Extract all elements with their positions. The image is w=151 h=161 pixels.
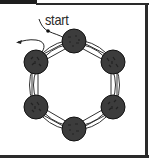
exit-arrowhead-icon xyxy=(16,40,22,44)
frame-bottom-line xyxy=(0,155,149,158)
start-label: start xyxy=(45,11,69,28)
ring-diagram xyxy=(0,0,151,161)
node-top xyxy=(62,29,86,53)
node-upper-left xyxy=(24,50,48,74)
node-lower-left xyxy=(24,95,48,119)
node-lower-right xyxy=(101,95,125,119)
frame-top-thick-bar xyxy=(0,0,37,4)
node-bottom xyxy=(62,117,86,141)
frame-top-line xyxy=(36,3,149,5)
exit-path-arrow xyxy=(18,40,44,52)
ring-inner xyxy=(38,44,111,126)
node-upper-right xyxy=(101,50,125,74)
start-dot xyxy=(46,29,50,33)
frame-right-line xyxy=(145,3,148,157)
